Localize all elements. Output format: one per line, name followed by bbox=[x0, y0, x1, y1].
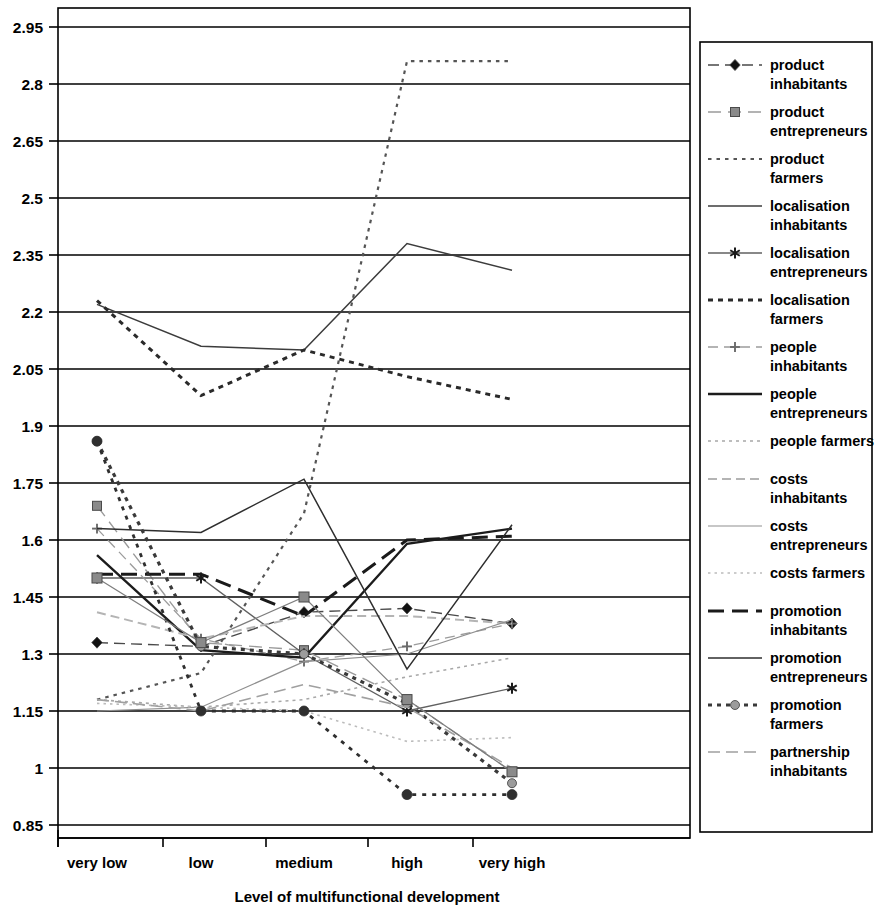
legend-label: inhabitants bbox=[770, 76, 847, 92]
legend-label: promotion bbox=[770, 697, 842, 713]
legend-label: entrepreneurs bbox=[770, 264, 868, 280]
y-axis-tick-labels: 0.8511.151.31.451.61.751.92.052.22.352.5… bbox=[13, 19, 44, 834]
series-localisation-farmers-low-tail bbox=[92, 436, 517, 799]
legend-label: farmers bbox=[770, 311, 823, 327]
data-point-marker bbox=[300, 650, 309, 659]
grid-layer bbox=[49, 27, 690, 825]
y-tick-label: 2.05 bbox=[13, 361, 44, 378]
x-category-label: medium bbox=[275, 854, 333, 871]
y-tick-label: 1.3 bbox=[21, 646, 43, 663]
legend-label: costs bbox=[770, 518, 808, 534]
legend-label: costs bbox=[770, 471, 808, 487]
series-line bbox=[97, 441, 512, 794]
legend-label: farmers bbox=[770, 170, 823, 186]
data-point-marker bbox=[402, 790, 412, 800]
legend-label: entrepreneurs bbox=[770, 405, 868, 421]
data-point-marker bbox=[507, 790, 517, 800]
series-product-entrepreneurs-tail bbox=[92, 573, 517, 777]
y-tick-label: 2.35 bbox=[13, 247, 44, 264]
legend-label: localisation bbox=[770, 198, 850, 214]
y-tick-label: 2.95 bbox=[13, 19, 44, 36]
series-line bbox=[97, 61, 512, 699]
legend-label: entrepreneurs bbox=[770, 669, 868, 685]
series-partnership-inhabitants bbox=[97, 684, 512, 768]
legend-label: entrepreneurs bbox=[770, 123, 868, 139]
y-tick-label: 2.2 bbox=[21, 304, 43, 321]
data-point-marker bbox=[507, 683, 517, 694]
x-axis-tick-labels: very lowlowmediumhighvery high bbox=[67, 854, 545, 871]
legend-label: inhabitants bbox=[770, 622, 847, 638]
data-point-marker bbox=[92, 573, 102, 583]
x-category-label: low bbox=[189, 854, 214, 871]
line-chart: 0.8511.151.31.451.61.751.92.052.22.352.5… bbox=[0, 0, 877, 912]
data-point-marker bbox=[402, 695, 412, 705]
data-point-marker bbox=[93, 501, 102, 510]
legend-label: product bbox=[770, 57, 824, 73]
legend-label: partnership bbox=[770, 744, 850, 760]
chart-figure: 0.8511.151.31.451.61.751.92.052.22.352.5… bbox=[0, 0, 877, 912]
y-tick-label: 1.75 bbox=[13, 475, 44, 492]
legend-label: product bbox=[770, 104, 824, 120]
legend-label: inhabitants bbox=[770, 358, 847, 374]
data-point-marker bbox=[299, 592, 309, 602]
legend-label: promotion bbox=[770, 603, 842, 619]
x-category-label: very high bbox=[479, 854, 546, 871]
legend-label: product bbox=[770, 151, 824, 167]
legend-label: promotion bbox=[770, 650, 842, 666]
y-tick-label: 1.45 bbox=[13, 589, 44, 606]
series-promotion-inhabitants bbox=[97, 536, 512, 616]
data-point-marker bbox=[196, 706, 206, 716]
data-point-marker bbox=[92, 436, 102, 446]
y-tick-label: 2.65 bbox=[13, 133, 44, 150]
data-point-marker bbox=[92, 637, 102, 648]
legend[interactable]: productinhabitantsproductentrepreneurspr… bbox=[700, 42, 874, 832]
data-point-marker bbox=[196, 638, 206, 648]
data-point-marker bbox=[507, 767, 517, 777]
legend-label: inhabitants bbox=[770, 217, 847, 233]
legend-label: farmers bbox=[770, 716, 823, 732]
series-localisation-farmers bbox=[97, 301, 512, 400]
x-category-label: very low bbox=[67, 854, 127, 871]
series-line bbox=[97, 536, 512, 616]
data-point-marker bbox=[731, 108, 740, 117]
legend-label: entrepreneurs bbox=[770, 537, 868, 553]
data-point-marker bbox=[731, 701, 740, 710]
legend-label: people bbox=[770, 386, 817, 402]
y-tick-label: 1.9 bbox=[21, 418, 43, 435]
legend-label: people bbox=[770, 339, 817, 355]
legend-label: inhabitants bbox=[770, 763, 847, 779]
y-tick-label: 1.15 bbox=[13, 703, 44, 720]
y-tick-label: 2.8 bbox=[21, 76, 43, 93]
data-point-marker bbox=[299, 706, 309, 716]
x-category-label: high bbox=[391, 854, 423, 871]
data-point-marker bbox=[402, 641, 412, 651]
y-tick-label: 1 bbox=[34, 760, 43, 777]
y-tick-label: 0.85 bbox=[13, 817, 44, 834]
y-tick-label: 1.6 bbox=[21, 532, 43, 549]
data-point-marker bbox=[508, 779, 517, 788]
legend-label: inhabitants bbox=[770, 490, 847, 506]
legend-label: costs farmers bbox=[770, 565, 865, 581]
x-axis-title: Level of multifunctional development bbox=[234, 888, 499, 905]
legend-label: localisation bbox=[770, 245, 850, 261]
y-tick-label: 2.5 bbox=[21, 190, 43, 207]
legend-label: people farmers bbox=[770, 433, 874, 449]
plot-frame bbox=[58, 8, 690, 847]
data-point-marker bbox=[402, 603, 412, 614]
series-layer bbox=[92, 61, 517, 799]
series-localisation-inhabitants bbox=[97, 244, 512, 350]
series-product-farmers bbox=[97, 61, 512, 699]
series-line bbox=[97, 684, 512, 768]
legend-label: localisation bbox=[770, 292, 850, 308]
series-line bbox=[97, 244, 512, 350]
series-line bbox=[97, 301, 512, 400]
